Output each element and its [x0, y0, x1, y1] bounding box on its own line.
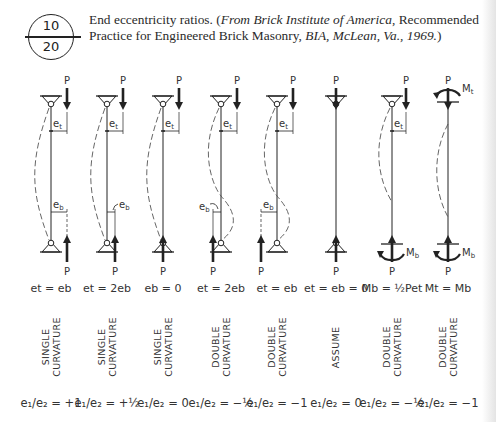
deflected-shape	[437, 124, 448, 217]
bottom-load-label: P	[389, 266, 395, 277]
top-pin-hinge	[389, 101, 395, 107]
et-label: et	[165, 118, 174, 131]
top-load-arrow-head	[119, 102, 127, 110]
et-label: et	[394, 118, 403, 131]
curvature-label: DOUBLECURVATURE	[428, 312, 468, 382]
column-5: PPeteb	[257, 75, 297, 277]
curvature-text: SINGLECURVATURE	[40, 317, 62, 376]
curvature-text: SINGLECURVATURE	[152, 317, 174, 376]
top-load-label: P	[120, 75, 126, 86]
column-8: MtMbPP	[433, 75, 476, 277]
bottom-load-label: P	[445, 266, 451, 277]
et-label: et	[53, 118, 62, 131]
eb-label: eb	[263, 199, 274, 212]
curvature-line: DOUBLE	[266, 317, 277, 376]
deflected-shape	[35, 108, 49, 240]
top-load-arrow-head	[233, 102, 241, 110]
top-load-arrow-head	[289, 102, 297, 110]
eccentricity-diagram: PPetebPPetebPPetPPetebPPetebPPMbPPetMtMb…	[0, 0, 496, 422]
bottom-load-label: P	[64, 266, 70, 277]
column-6: PP	[325, 75, 347, 277]
curvature-text: DOUBLECURVATURE	[381, 317, 403, 376]
eb-leader	[210, 204, 218, 209]
top-load-arrow-head	[444, 102, 452, 110]
curvature-line: CURVATURE	[51, 317, 62, 376]
column-2: PPeteb	[91, 75, 130, 277]
curvature-line: DOUBLE	[210, 317, 221, 376]
curvature-line: SINGLE	[96, 317, 107, 376]
bottom-load-label: P	[210, 266, 216, 277]
curvature-text: DOUBLECURVATURE	[266, 317, 288, 376]
top-load-label: P	[290, 75, 296, 86]
deflected-shape	[147, 108, 161, 240]
column-3: PPet	[147, 75, 183, 277]
curvature-line: SINGLE	[40, 317, 51, 376]
bottom-load-label: P	[160, 266, 166, 277]
curvature-text: ASSUME	[331, 326, 342, 368]
curvature-label: SINGLECURVATURE	[87, 312, 127, 382]
top-load-arrow-head	[175, 102, 183, 110]
top-load-arrow-head	[332, 102, 340, 110]
et-label: et	[223, 118, 232, 131]
curvature-line: ASSUME	[331, 326, 342, 368]
deflected-shape	[379, 108, 392, 202]
deflected-shape	[91, 108, 105, 240]
curvature-label: DOUBLECURVATURE	[372, 312, 412, 382]
bottom-load-arrow-head	[332, 235, 340, 243]
top-load-arrow-head	[63, 102, 71, 110]
curvature-line: DOUBLE	[381, 317, 392, 376]
top-pin-hinge	[104, 101, 110, 107]
top-pin-hinge	[274, 101, 280, 107]
curvature-line: CURVATURE	[107, 317, 118, 376]
curvature-line: CURVATURE	[448, 317, 459, 376]
condition-label: Mt = Mb	[413, 282, 483, 295]
curvature-label: SINGLECURVATURE	[143, 312, 183, 382]
eccentricity-ratio: e₁/e₂ = −1	[413, 396, 483, 410]
bottom-pin-hinge	[218, 240, 224, 246]
moment-label-bottom: Mb	[406, 247, 420, 260]
moment-label-bottom: Mb	[462, 247, 476, 260]
curvature-text: DOUBLECURVATURE	[437, 317, 459, 376]
curvature-text: SINGLECURVATURE	[96, 317, 118, 376]
eb-leader	[113, 204, 118, 210]
top-load-label: P	[333, 75, 339, 86]
eb-label: eb	[119, 199, 130, 212]
top-load-label: P	[234, 75, 240, 86]
curvature-line: DOUBLE	[437, 317, 448, 376]
curvature-label: SINGLECURVATURE	[31, 312, 71, 382]
top-pin-hinge	[160, 101, 166, 107]
top-load-label: P	[64, 75, 70, 86]
column-1: PPeteb	[35, 75, 71, 277]
curvature-label: DOUBLECURVATURE	[201, 312, 241, 382]
top-load-label: P	[176, 75, 182, 86]
eb-label: eb	[199, 201, 210, 214]
moment-label-top: Mt	[462, 83, 474, 96]
top-pin-hinge	[218, 101, 224, 107]
bottom-pin-hinge	[274, 240, 280, 246]
curvature-line: CURVATURE	[221, 317, 232, 376]
top-load-label: P	[445, 75, 451, 86]
curvature-text: DOUBLECURVATURE	[210, 317, 232, 376]
curvature-line: CURVATURE	[392, 317, 403, 376]
bottom-load-label: P	[333, 266, 339, 277]
curvature-line: CURVATURE	[163, 317, 174, 376]
eb-label: eb	[53, 199, 64, 212]
top-moment-arrowhead	[433, 92, 440, 99]
top-load-label: P	[403, 75, 409, 86]
et-label: et	[279, 118, 288, 131]
column-4: PPeteb	[199, 75, 241, 277]
bottom-pin-hinge	[104, 240, 110, 246]
column-7: MbPPet	[377, 75, 420, 277]
bottom-load-label: P	[258, 266, 264, 277]
curvature-label: ASSUME	[316, 312, 356, 382]
bottom-load-arrow-head	[444, 235, 452, 243]
curvature-label: DOUBLECURVATURE	[257, 312, 297, 382]
top-load-arrow-head	[402, 102, 410, 110]
bottom-load-label: P	[112, 266, 118, 277]
bottom-load-arrow-head	[388, 235, 396, 243]
bottom-load-arrow-head	[159, 235, 167, 243]
curvature-line: CURVATURE	[277, 317, 288, 376]
et-label: et	[109, 118, 118, 131]
curvature-line: SINGLE	[152, 317, 163, 376]
top-pin-hinge	[48, 101, 54, 107]
